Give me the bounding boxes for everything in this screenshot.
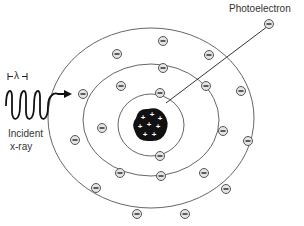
electron-minus-signs [73,24,272,214]
svg-text:+: + [147,120,152,129]
incident-label-line1: Incident [8,128,43,140]
wavelength-label: λ [14,70,19,82]
incident-label-line2: x-ray [10,141,32,153]
svg-text:+: + [156,122,161,131]
photoelectron-path [166,26,268,103]
svg-text:+: + [143,130,148,139]
nucleus: +++ +++ ++ [133,108,167,141]
svg-text:+: + [150,110,155,119]
atom-diagram: +++ +++ ++ [0,0,304,226]
svg-text:+: + [152,130,157,139]
svg-text:+: + [141,113,146,122]
arrow-head-icon [64,90,72,98]
photoelectron-label: Photoelectron [229,3,291,15]
electrons [71,20,274,219]
incident-wave [6,91,64,119]
